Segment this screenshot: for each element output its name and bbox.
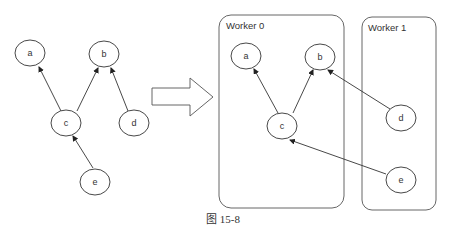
node-a-right: a	[231, 43, 261, 69]
edge-c-to-a-right	[254, 69, 278, 113]
node-e-label: e	[92, 177, 97, 187]
edge-e-to-c	[73, 136, 93, 168]
node-d-right-label: d	[398, 113, 403, 123]
node-d-right: d	[386, 105, 416, 131]
node-e: e	[80, 169, 110, 195]
worker-0-label: Worker 0	[226, 20, 264, 31]
node-e-right-label: e	[398, 175, 403, 185]
node-b-right-label: b	[317, 52, 322, 62]
node-c-right-label: c	[280, 121, 285, 131]
edge-c-to-a	[39, 67, 61, 111]
node-c-right: c	[267, 113, 297, 139]
node-a-label: a	[27, 48, 32, 58]
worker-0-box	[219, 15, 344, 208]
node-e-right: e	[386, 167, 416, 193]
left-graph: a b c d e	[15, 40, 149, 195]
node-c: c	[51, 110, 81, 136]
node-d: d	[119, 110, 149, 136]
node-b-label: b	[101, 49, 106, 59]
right-graph: a b c d e	[231, 43, 416, 193]
edge-d-to-b	[111, 68, 128, 111]
node-a-right-label: a	[243, 51, 248, 61]
node-b-right: b	[305, 44, 335, 70]
figure-caption: 图 15-8	[206, 210, 240, 226]
node-a: a	[15, 40, 45, 66]
transform-arrow-icon	[152, 78, 213, 116]
edge-c-to-b	[77, 68, 98, 111]
node-d-label: d	[131, 118, 136, 128]
diagram-canvas: a b c d e Worker 0 Worker 1 a	[0, 0, 449, 235]
edge-d-to-b-right	[328, 70, 390, 109]
edge-e-to-c-right	[290, 140, 386, 174]
node-c-label: c	[64, 118, 69, 128]
edge-c-to-b-right	[293, 70, 313, 113]
worker-1-label: Worker 1	[368, 22, 406, 33]
node-b: b	[89, 41, 119, 67]
